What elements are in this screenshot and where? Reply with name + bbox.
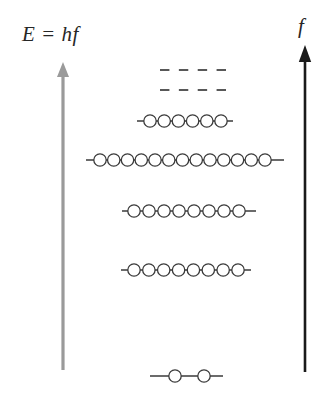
electron-circle — [94, 154, 106, 166]
electron-circle — [144, 115, 156, 127]
energy-level-diagram — [0, 0, 335, 412]
dashed-levels-group — [160, 70, 226, 90]
electron-circle — [245, 154, 257, 166]
electron-circle — [218, 154, 230, 166]
frequency-axis-arrowhead-icon — [299, 45, 311, 62]
electron-circle — [202, 264, 214, 276]
electron-circle — [217, 264, 229, 276]
electron-circle — [128, 205, 140, 217]
electron-circle — [158, 115, 170, 127]
electron-circle — [186, 115, 198, 127]
electron-circle — [215, 115, 227, 127]
electron-circle — [128, 264, 140, 276]
electron-circle — [201, 115, 213, 127]
electron-circle — [149, 154, 161, 166]
electron-circle — [163, 154, 175, 166]
electron-circle — [259, 154, 271, 166]
electron-circle — [188, 205, 200, 217]
electron-circle — [135, 154, 147, 166]
electron-circle — [231, 154, 243, 166]
electron-circle — [169, 370, 181, 382]
frequency-axis-label: f — [298, 14, 304, 39]
energy-level-1 — [150, 370, 223, 382]
energy-level-2 — [121, 264, 251, 276]
electron-circle — [190, 154, 202, 166]
electron-circle — [158, 264, 170, 276]
electron-circle — [143, 205, 155, 217]
electron-circle — [172, 264, 184, 276]
electron-circle — [158, 205, 170, 217]
electron-circle — [232, 264, 244, 276]
electron-circle — [172, 115, 184, 127]
diagram-canvas: E = hf f — [0, 0, 335, 412]
energy-axis-arrowhead-icon — [57, 62, 69, 77]
electron-circle — [173, 205, 185, 217]
electron-circle — [233, 205, 245, 217]
energy-level-3 — [122, 205, 256, 217]
energy-level-4 — [86, 154, 284, 166]
energy-axis-label: E = hf — [22, 22, 79, 47]
electron-circle — [218, 205, 230, 217]
frequency-axis — [299, 45, 311, 372]
electron-circle — [176, 154, 188, 166]
electron-circle — [121, 154, 133, 166]
energy-levels-group — [86, 115, 284, 382]
electron-circle — [198, 370, 210, 382]
electron-circle — [204, 154, 216, 166]
electron-circle — [187, 264, 199, 276]
electron-circle — [108, 154, 120, 166]
energy-axis — [57, 62, 69, 370]
electron-circle — [143, 264, 155, 276]
electron-circle — [203, 205, 215, 217]
energy-level-5 — [137, 115, 233, 127]
